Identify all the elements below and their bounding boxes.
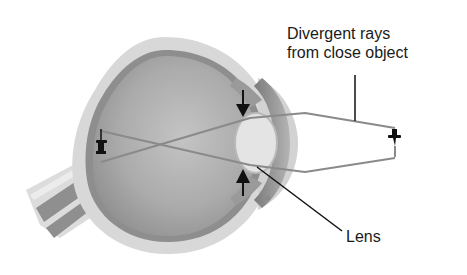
rays-label-line1: Divergent rays (287, 24, 408, 43)
object-pushpin-icon (388, 129, 401, 157)
divergent-rays-label: Divergent rays from close object (287, 24, 408, 62)
rays-label-line2: from close object (287, 43, 408, 62)
lens-label: Lens (346, 227, 381, 246)
